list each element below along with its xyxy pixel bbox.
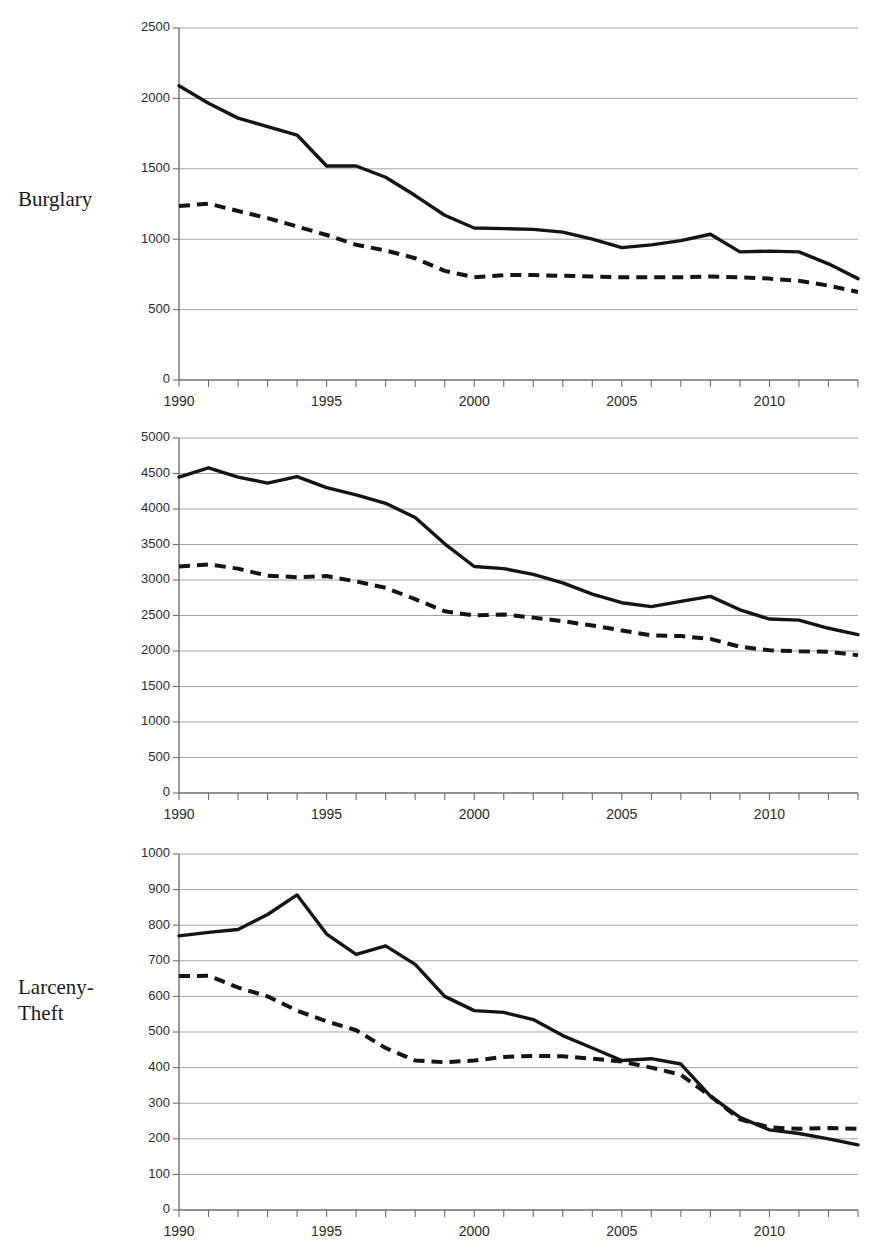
y-tick-label: 500 [148, 1023, 170, 1038]
chart-panel-burglary: Burglary 0500100015002000250019901995200… [0, 0, 892, 418]
gridlines [179, 28, 858, 310]
gridlines [179, 854, 858, 1174]
y-tick-label: 1000 [141, 845, 170, 860]
y-tick-label: 2500 [141, 607, 170, 622]
x-axis-ticks [179, 793, 858, 800]
y-tick-label: 1000 [141, 231, 170, 246]
chart-panel-motor-vehicle-theft: Motor Vehicle Theft 01002003004005006007… [0, 838, 892, 1256]
y-tick-label: 200 [148, 1130, 170, 1145]
y-tick-label: 300 [148, 1095, 170, 1110]
y-axis-ticks: 05001000150020002500 [141, 19, 179, 386]
y-tick-label: 700 [148, 952, 170, 967]
y-tick-label: 900 [148, 881, 170, 896]
data-line-solid [179, 468, 858, 635]
x-tick-label: 2005 [606, 806, 637, 822]
data-line-solid [179, 86, 858, 279]
y-tick-label: 2500 [141, 19, 170, 34]
y-axis-ticks: 01002003004005006007008009001000 [141, 845, 179, 1216]
data-line-dashed [179, 564, 858, 655]
data-line-dashed [179, 976, 858, 1129]
x-axis-labels: 19901995200020052010 [163, 393, 785, 409]
y-axis-ticks: 0500100015002000250030003500400045005000 [141, 429, 179, 799]
x-tick-label: 2000 [459, 806, 490, 822]
y-tick-label: 3500 [141, 536, 170, 551]
y-tick-label: 0 [163, 371, 170, 386]
chart-svg-motor-vehicle-theft: 0100200300400500600700800900100019901995… [0, 838, 892, 1256]
x-axis-labels: 19901995200020052010 [163, 806, 785, 822]
x-axis-ticks [179, 380, 858, 387]
y-tick-label: 800 [148, 917, 170, 932]
y-tick-label: 100 [148, 1166, 170, 1181]
x-axis-labels: 19901995200020052010 [163, 1223, 785, 1239]
x-tick-label: 2010 [754, 393, 785, 409]
x-tick-label: 2010 [754, 806, 785, 822]
y-tick-label: 500 [148, 749, 170, 764]
y-tick-label: 2000 [141, 90, 170, 105]
x-tick-label: 2005 [606, 1223, 637, 1239]
y-tick-label: 3000 [141, 571, 170, 586]
x-tick-label: 1995 [311, 393, 342, 409]
x-tick-label: 1990 [163, 1223, 194, 1239]
x-tick-label: 1995 [311, 806, 342, 822]
y-tick-label: 500 [148, 301, 170, 316]
y-tick-label: 5000 [141, 429, 170, 444]
y-tick-label: 0 [163, 1201, 170, 1216]
y-tick-label: 1500 [141, 678, 170, 693]
chart-svg-larceny-theft: 0500100015002000250030003500400045005000… [0, 418, 892, 836]
y-tick-label: 400 [148, 1059, 170, 1074]
x-tick-label: 2000 [459, 393, 490, 409]
data-line-solid [179, 895, 858, 1145]
y-tick-label: 4500 [141, 465, 170, 480]
figure-page: Burglary 0500100015002000250019901995200… [0, 0, 892, 1258]
x-tick-label: 1990 [163, 393, 194, 409]
x-tick-label: 2005 [606, 393, 637, 409]
chart-panel-larceny-theft: Larceny- Theft 0500100015002000250030003… [0, 418, 892, 836]
x-axis-ticks [179, 1210, 858, 1217]
gridlines [179, 438, 858, 758]
y-tick-label: 1500 [141, 160, 170, 175]
chart-svg-burglary: 0500100015002000250019901995200020052010 [0, 0, 892, 418]
data-line-dashed [179, 204, 858, 292]
x-tick-label: 1990 [163, 806, 194, 822]
x-tick-label: 2010 [754, 1223, 785, 1239]
y-tick-label: 2000 [141, 642, 170, 657]
x-tick-label: 2000 [459, 1223, 490, 1239]
y-tick-label: 600 [148, 988, 170, 1003]
y-tick-label: 1000 [141, 713, 170, 728]
y-tick-label: 4000 [141, 500, 170, 515]
x-tick-label: 1995 [311, 1223, 342, 1239]
y-tick-label: 0 [163, 784, 170, 799]
